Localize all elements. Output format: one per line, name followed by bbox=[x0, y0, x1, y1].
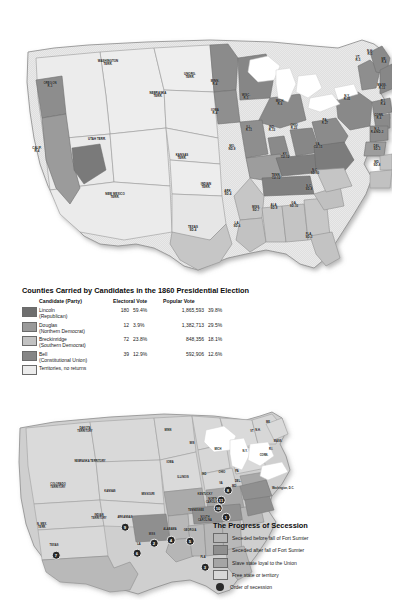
map-label-la: LA. SD-6 bbox=[234, 222, 241, 229]
color-swatch bbox=[213, 558, 228, 568]
map-label-nebraska-terr: NEBRASKA TERR. bbox=[150, 92, 167, 99]
color-swatch bbox=[22, 322, 37, 332]
secession-legend-label: Order of secession bbox=[230, 584, 272, 590]
map-label-me: ME. R-8 bbox=[381, 58, 386, 65]
map-label-missouri: MISSOURI bbox=[141, 494, 154, 497]
secession-order-georgia: 5 bbox=[186, 537, 195, 546]
color-swatch bbox=[213, 533, 228, 543]
map-label-va: VA bbox=[219, 483, 223, 486]
legend-popular-pct: 39.8% bbox=[208, 306, 288, 321]
map-label-indian-terr: INDIAN TERR. bbox=[201, 183, 211, 190]
map-label-iowa: IOWA bbox=[166, 462, 173, 465]
map-label-fla: FLA. SD-3 bbox=[306, 233, 313, 240]
map-label-calif: CALIF. R-4 bbox=[32, 147, 41, 154]
map-label-vt: VT. R-5 bbox=[356, 56, 361, 63]
secession-order-florida: 3 bbox=[201, 563, 210, 572]
legend-swatch bbox=[22, 321, 39, 336]
legend-electoral-vote bbox=[113, 364, 133, 377]
secession-legend-label: Seceded after fall of Fort Sumter bbox=[232, 547, 304, 553]
map-label-alabama: ALABAMA bbox=[163, 529, 176, 532]
candidate-party: (Republican) bbox=[39, 313, 113, 319]
map-label-georgia: GEORGIA bbox=[184, 530, 197, 533]
map-label-del: DEL. bbox=[235, 481, 241, 484]
map-label-kansas: KANSAS bbox=[104, 491, 115, 494]
legend-electoral-pct: 59.4% bbox=[133, 306, 163, 321]
map-label-washington-terr: WASHINGTON TERR. bbox=[98, 60, 118, 67]
color-swatch bbox=[22, 365, 37, 375]
page-root: WASHINGTON TERR.OREGON R-3CALIF. R-4UTAH… bbox=[0, 0, 401, 609]
secession-legend-row: Free state or territory bbox=[213, 570, 393, 580]
map-label-unorg-terr: UNORG. TERR. bbox=[184, 73, 196, 80]
secession-order-arkansas: 9 bbox=[121, 523, 130, 532]
map-label-indian-territory: INDIAN TERRITORY bbox=[91, 515, 106, 521]
map-label-ky: KY. CU-12 bbox=[281, 153, 290, 160]
legend-popular-vote: 592,906 bbox=[163, 350, 208, 365]
map-label-conn: CONN. R-6 bbox=[374, 114, 384, 121]
map-label-south-carolina: SOUTH CAROLINA bbox=[198, 517, 212, 523]
candidate-party: (Southern Democrat) bbox=[39, 342, 113, 348]
map-label-new-mexico-terr: NEW MEXICO TERR. bbox=[105, 193, 125, 200]
secession-legend-row: Order of secession bbox=[213, 583, 393, 591]
map-label-ny: N.Y. R-35 bbox=[344, 95, 351, 102]
legend-electoral-vote: 12 bbox=[113, 321, 133, 336]
color-swatch bbox=[213, 545, 228, 555]
legend-swatch bbox=[22, 306, 39, 321]
secession-order-tennessee: 10 bbox=[214, 504, 223, 513]
candidate-party: (Northern Democrat) bbox=[39, 328, 113, 334]
legend-candidate: Lincoln(Republican) bbox=[39, 306, 113, 321]
legend-popular-pct: 18.1% bbox=[208, 335, 288, 350]
map-label-conn: CONN. bbox=[260, 455, 269, 458]
map-label-iowa: IOWA R-4 bbox=[211, 109, 219, 116]
map-label-pa: PA bbox=[235, 471, 239, 474]
map-label-tenn: TENN. CU-12 bbox=[272, 174, 281, 181]
secession-order-mississippi: 2 bbox=[150, 539, 159, 548]
map-label-ga: GA. SD-10 bbox=[290, 202, 298, 209]
candidate-party: (Constitutional Union) bbox=[39, 357, 113, 363]
legend-popular-pct bbox=[208, 364, 288, 377]
secession-legend-label: Seceded before fall of Fort Sumter bbox=[232, 535, 308, 541]
order-marker-icon bbox=[216, 583, 224, 591]
map-label-minn: MINN bbox=[165, 430, 172, 433]
map-label-kentucky: KENTUCKY bbox=[198, 494, 213, 497]
legend-swatch bbox=[22, 335, 39, 350]
map-label-sc: S.C. SD-8 bbox=[306, 185, 313, 192]
legend-popular-pct: 12.6% bbox=[208, 350, 288, 365]
map-label-ind: IND bbox=[202, 474, 207, 477]
legend-header-swatch bbox=[22, 298, 39, 306]
map-label-me: ME bbox=[266, 422, 270, 425]
legend-candidate: Breckinridge(Southern Democrat) bbox=[39, 335, 113, 350]
legend-electoral-vote: 39 bbox=[113, 350, 133, 365]
map-label-ala: ALA. SD-9 bbox=[271, 204, 278, 211]
map-label-tennessee: TENNESSEE bbox=[188, 510, 204, 513]
map-label-va: VA. CU-15 bbox=[314, 143, 323, 150]
map-label-texas: TEXAS bbox=[50, 545, 59, 548]
map-label-mich: MICH bbox=[215, 449, 222, 452]
secession-order-texas: 7 bbox=[52, 551, 61, 560]
secession-legend-title: The Progress of Secession bbox=[213, 521, 393, 530]
map-label-mich: MICH. R-6 bbox=[276, 100, 284, 107]
legend-popular-vote: 1,382,713 bbox=[163, 321, 208, 336]
secession-legend-label: Slave state loyal to the Union bbox=[232, 560, 297, 566]
legend-electoral-vote: 72 bbox=[113, 335, 133, 350]
map-label-minn: MINN. R-4 bbox=[211, 80, 219, 87]
map-label-mo: MO. ND-9 bbox=[229, 145, 236, 152]
map-label-n-mex-terr: N. MEX. TERR. bbox=[37, 524, 47, 530]
secession-order-louisiana: 6 bbox=[133, 549, 142, 558]
map-label-nj: N.J. R-4/ND-3 bbox=[371, 128, 384, 135]
map-label-miss: MISS bbox=[149, 534, 156, 537]
map-label-nh: N.H. bbox=[255, 430, 260, 433]
map-label-dakota-territory: DAKOTA TERRITORY bbox=[77, 428, 92, 434]
map-label-nc: N.C. SD-10 bbox=[311, 169, 319, 176]
election-legend-table: Candidate (Party) Electoral Vote Popular… bbox=[22, 298, 288, 377]
secession-order-alabama: 4 bbox=[167, 536, 176, 545]
legend-row: Breckinridge(Southern Democrat)7223.8%84… bbox=[22, 335, 288, 350]
map-label-kansas-terr: KANSAS TERR. bbox=[176, 154, 189, 161]
secession-legend-row: Slave state loyal to the Union bbox=[213, 558, 393, 568]
map-label-ark: ARK. SD-4 bbox=[224, 190, 231, 197]
secession-legend-label: Free state or territory bbox=[232, 572, 279, 578]
secession-legend-row: Seceded before fall of Fort Sumter bbox=[213, 533, 393, 543]
color-swatch bbox=[22, 351, 37, 361]
map-label-texas: TEXAS SD-4 bbox=[188, 226, 198, 233]
map-label-colorado-territory: COLORADO TERRITORY bbox=[50, 484, 66, 490]
legend-electoral-pct: 12.9% bbox=[133, 350, 163, 365]
